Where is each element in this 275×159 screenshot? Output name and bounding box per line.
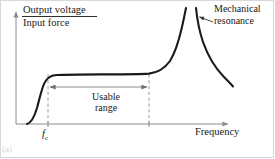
figure-container: Output voltage Input force Frequency fc … (0, 0, 275, 159)
mechanical-resonance-label: Mechanical resonance (214, 3, 261, 26)
mechanical-resonance-label-line1: Mechanical (214, 3, 261, 15)
usable-range-label-line1: Usable (84, 91, 128, 102)
x-axis-label: Frequency (195, 126, 239, 137)
x-tick-label-fc-subscript: c (45, 134, 48, 142)
figure-caption-remnant: (a) (2, 145, 12, 155)
resonance-leader-arrow (200, 17, 214, 22)
mechanical-resonance-label-line2: resonance (214, 15, 261, 27)
y-axis-label-denominator: Input force (22, 17, 97, 28)
x-tick-label-fc: fc (42, 128, 48, 143)
y-axis-label-numerator: Output voltage (22, 4, 97, 15)
y-axis-label: Output voltage Input force (22, 4, 97, 28)
usable-range-label-line2: range (84, 102, 128, 113)
usable-range-label: Usable range (84, 91, 128, 113)
